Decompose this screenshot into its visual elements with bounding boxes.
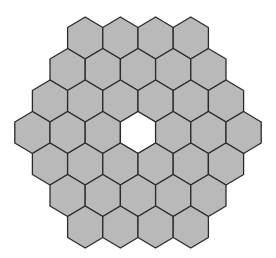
hex-cells-group [15, 17, 261, 248]
hex-grid-diagram [0, 0, 276, 258]
